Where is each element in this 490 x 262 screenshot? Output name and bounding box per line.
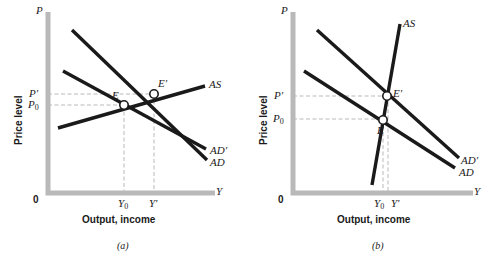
chart-panel-a: P Y 0 P' P0 Y0 Y' AS AD' AD E E' Price l… — [0, 0, 245, 262]
panel-b-point-label-e: E — [377, 125, 384, 136]
panel-b-tick-y0: Y0 — [374, 198, 384, 209]
panel-a-tick-y0-sub: 0 — [124, 202, 128, 211]
panel-b-x-axis-symbol: Y — [474, 186, 480, 197]
panel-a-xlabel: Output, income — [82, 215, 155, 225]
panel-a-x-axis-symbol: Y — [216, 186, 222, 197]
panel-b-caption: (b) — [372, 241, 384, 251]
panel-a-curve-ad-prime — [63, 71, 206, 149]
panel-b-tick-y-prime: Y' — [391, 198, 399, 209]
panel-a-tick-p0: P0 — [28, 99, 39, 110]
panel-a-origin-label: 0 — [33, 195, 39, 205]
panel-a-caption: (a) — [117, 241, 129, 251]
panel-a-tick-p0-base: P — [28, 98, 35, 110]
panel-a-label-ad: AD — [210, 157, 225, 168]
panel-a-point-e-prime — [150, 90, 158, 98]
panel-b-point-label-e-prime: E' — [393, 88, 402, 99]
panel-b-label-as: AS — [403, 18, 415, 29]
panel-b-tick-p-prime: P' — [274, 90, 283, 101]
panel-b-label-ad: AD — [459, 167, 474, 178]
panel-a-label-as: AS — [209, 79, 221, 90]
panel-a-curve-as — [58, 86, 205, 128]
panel-b-xlabel: Output, income — [337, 215, 410, 225]
panel-a-tick-y0: Y0 — [118, 198, 128, 209]
panel-b-point-e — [379, 116, 387, 124]
panel-a-ylabel: Price level — [14, 96, 24, 145]
panel-b-label-ad-prime: AD' — [461, 155, 478, 166]
panel-a-point-label-e-prime: E' — [158, 78, 167, 89]
panel-a-point-label-e: E — [112, 90, 119, 101]
panel-b-tick-y0-sub: 0 — [380, 202, 384, 211]
figure-ad-as-comparison: P Y 0 P' P0 Y0 Y' AS AD' AD E E' Price l… — [0, 0, 490, 262]
panel-a-y-axis-symbol: P — [36, 5, 43, 16]
panel-b-y-axis-symbol: P — [281, 5, 288, 16]
panel-b-origin-label: 0 — [278, 195, 284, 205]
chart-panel-b: P Y 0 P' P0 Y0 Y' AS AD' AD E E' Price l… — [245, 0, 490, 262]
panel-b-point-e-prime — [383, 92, 391, 100]
panel-b-tick-p0-sub: 0 — [280, 117, 284, 126]
panel-a-tick-y-prime: Y' — [149, 198, 157, 209]
panel-b-ylabel: Price level — [259, 96, 269, 145]
panel-a-label-ad-prime: AD' — [210, 145, 227, 156]
panel-a-curve-ad — [72, 30, 207, 160]
panel-b-tick-p0: P0 — [273, 113, 284, 124]
panel-a-point-e — [120, 101, 128, 109]
panel-b-tick-p0-base: P — [273, 112, 280, 124]
panel-b-curve-as — [372, 24, 400, 185]
panel-a-tick-p0-sub: 0 — [35, 103, 39, 112]
panel-a-axes — [48, 12, 215, 193]
